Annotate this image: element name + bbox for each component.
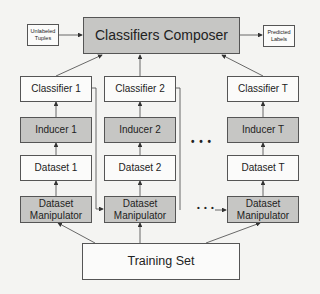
dataset-1-label: Dataset 1 xyxy=(35,162,78,174)
dataset-2-label: Dataset 2 xyxy=(119,162,162,174)
classifier-2-label: Classifier 2 xyxy=(115,83,164,95)
classifier-t-box: Classifier T xyxy=(227,76,299,102)
inducer-t-box: Inducer T xyxy=(227,117,299,143)
inducer-t-label: Inducer T xyxy=(242,124,284,136)
inducer-2-box: Inducer 2 xyxy=(104,117,176,143)
dataset-manipulator-t-box: Dataset Manipulator xyxy=(227,196,299,223)
dataset-2-box: Dataset 2 xyxy=(104,155,176,181)
dataset-manipulator-1-box: Dataset Manipulator xyxy=(20,196,92,223)
dataset-manipulator-t-label: Dataset Manipulator xyxy=(236,198,290,221)
inducer-2-label: Inducer 2 xyxy=(119,124,161,136)
classifiers-composer-label: Classifiers Composer xyxy=(95,27,228,43)
inducer-1-label: Inducer 1 xyxy=(35,124,77,136)
inducer-1-box: Inducer 1 xyxy=(20,117,92,143)
ellipsis-bottom: • • • xyxy=(197,203,215,212)
classifier-1-label: Classifier 1 xyxy=(31,83,80,95)
predicted-labels-label: Predicted Labels xyxy=(264,29,294,43)
ellipsis-middle: • • • xyxy=(191,136,212,147)
predicted-labels-box: Predicted Labels xyxy=(263,25,295,47)
dataset-t-label: Dataset T xyxy=(241,162,284,174)
dataset-1-box: Dataset 1 xyxy=(20,155,92,181)
dataset-t-box: Dataset T xyxy=(227,155,299,181)
classifier-t-label: Classifier T xyxy=(238,83,288,95)
classifier-2-box: Classifier 2 xyxy=(104,76,176,102)
classifier-1-box: Classifier 1 xyxy=(20,76,92,102)
training-set-label: Training Set xyxy=(128,254,195,268)
unlabeled-tuples-box: Unlabeled Tuples xyxy=(27,24,59,46)
dataset-manipulator-2-box: Dataset Manipulator xyxy=(104,196,176,223)
dataset-manipulator-2-label: Dataset Manipulator xyxy=(113,198,167,221)
classifiers-composer-box: Classifiers Composer xyxy=(83,17,240,54)
dataset-manipulator-1-label: Dataset Manipulator xyxy=(29,198,83,221)
training-set-box: Training Set xyxy=(82,243,240,280)
unlabeled-tuples-label: Unlabeled Tuples xyxy=(28,28,58,42)
